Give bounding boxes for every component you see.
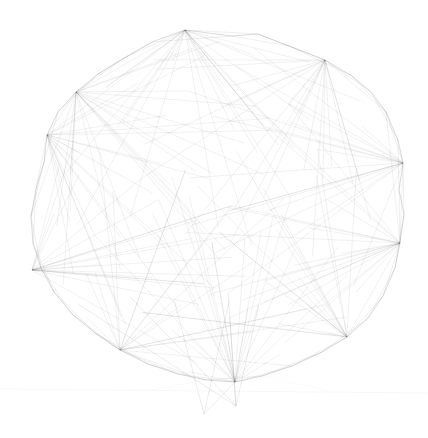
network-graph-figure (0, 0, 428, 438)
graph-canvas[interactable] (0, 0, 428, 438)
